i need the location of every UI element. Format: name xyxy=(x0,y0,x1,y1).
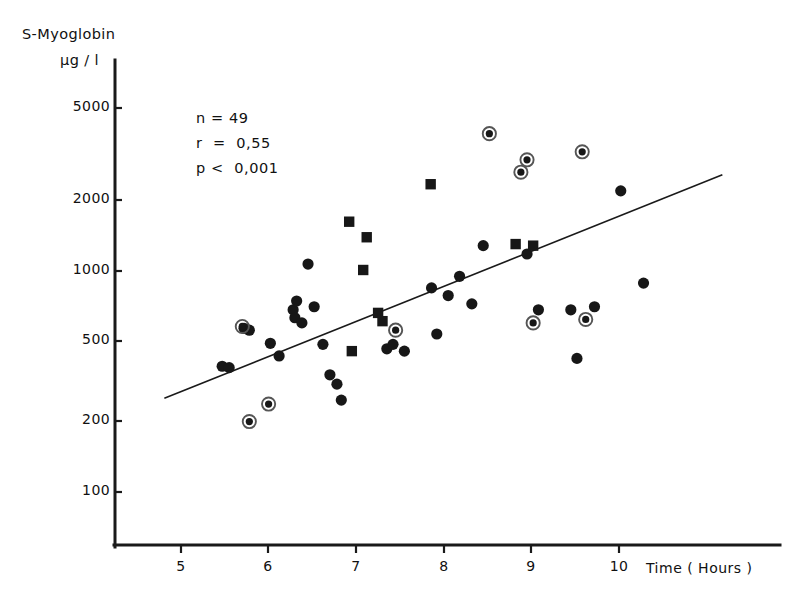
x-tick-label: 5 xyxy=(161,558,201,574)
data-point-circle xyxy=(589,301,600,312)
data-point-square xyxy=(377,316,387,326)
data-point-circle xyxy=(443,290,454,301)
stat-r: r = 0,55 xyxy=(196,131,279,156)
data-point-ringed-circle xyxy=(392,327,399,334)
data-point-circle xyxy=(291,295,302,306)
y-tick-label: 100 xyxy=(82,482,110,498)
data-point-ringed-circle xyxy=(239,323,246,330)
statistics-annotation: n = 49 r = 0,55 p < 0,001 xyxy=(196,106,279,181)
plot-canvas xyxy=(0,0,792,612)
x-tick-label: 7 xyxy=(336,558,376,574)
data-point-ringed-circle xyxy=(246,418,253,425)
data-point-ringed-circle xyxy=(517,169,524,176)
data-point-circle xyxy=(317,339,328,350)
data-point-ringed-circle xyxy=(486,130,493,137)
data-point-square xyxy=(425,179,435,189)
chart-figure: S-Myoglobin µg / l Time ( Hours ) n = 49… xyxy=(0,0,792,612)
data-point-circle xyxy=(431,328,442,339)
data-point-ringed-circle xyxy=(582,316,589,323)
data-point-circle xyxy=(296,317,307,328)
data-point-circle xyxy=(478,240,489,251)
data-point-circle xyxy=(571,353,582,364)
data-point-circle xyxy=(638,277,649,288)
y-axis-title-line-1: S-Myoglobin xyxy=(22,26,115,42)
data-point-ringed-circle xyxy=(579,148,586,155)
data-point-circle xyxy=(265,338,276,349)
x-axis-title: Time ( Hours ) xyxy=(646,560,753,576)
data-point-circle xyxy=(533,304,544,315)
regression-line xyxy=(164,175,722,398)
data-point-circle xyxy=(399,346,410,357)
x-tick-label: 8 xyxy=(424,558,464,574)
y-tick-label: 200 xyxy=(82,411,110,427)
data-point-circle xyxy=(302,258,313,269)
data-point-circle xyxy=(387,339,398,350)
data-point-square xyxy=(528,240,538,250)
regression-trend-line xyxy=(164,175,722,398)
data-point-square xyxy=(347,346,357,356)
data-point-circle xyxy=(324,369,335,380)
data-point-circle xyxy=(274,350,285,361)
x-tick-label: 6 xyxy=(248,558,288,574)
y-axis-title-line-2: µg / l xyxy=(60,52,99,68)
data-point-circle xyxy=(454,271,465,282)
data-point-square xyxy=(510,239,520,249)
data-point-circle xyxy=(466,298,477,309)
data-point-circle xyxy=(336,395,347,406)
y-tick-label: 2000 xyxy=(73,190,110,206)
y-tick-label: 1000 xyxy=(73,261,110,277)
data-point-circle xyxy=(615,185,626,196)
data-point-circle xyxy=(565,304,576,315)
data-point-circle xyxy=(309,301,320,312)
y-tick-label: 500 xyxy=(82,331,110,347)
stat-p: p < 0,001 xyxy=(196,156,279,181)
stat-n: n = 49 xyxy=(196,106,279,131)
y-tick-label: 5000 xyxy=(73,98,110,114)
data-point-square xyxy=(358,265,368,275)
data-point-ringed-circle xyxy=(530,319,537,326)
data-point-circle xyxy=(224,362,235,373)
data-point-circle xyxy=(331,379,342,390)
data-point-square xyxy=(344,217,354,227)
data-point-ringed-circle xyxy=(265,400,272,407)
data-point-circle xyxy=(426,282,437,293)
x-tick-label: 10 xyxy=(599,558,639,574)
data-point-ringed-circle xyxy=(523,156,530,163)
data-points xyxy=(217,127,650,428)
x-tick-label: 9 xyxy=(511,558,551,574)
data-point-square xyxy=(362,232,372,242)
